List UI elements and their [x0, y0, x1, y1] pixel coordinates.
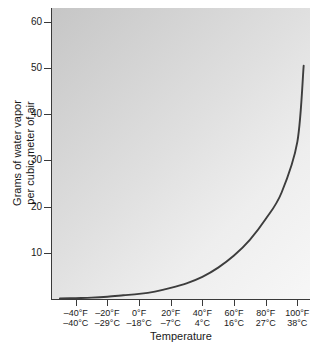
y-tick-label-60: 60	[14, 17, 42, 27]
x-tick-5	[234, 300, 235, 306]
x-axis-line	[51, 299, 310, 300]
x-tick-label-fahrenheit-7: 100°F	[285, 308, 309, 318]
y-tick-40	[44, 114, 51, 115]
y-tick-10	[44, 253, 51, 254]
x-tick-1	[107, 300, 108, 306]
x-tick-label-fahrenheit-2: 0°F	[132, 308, 146, 318]
x-tick-label-fahrenheit-5: 60°F	[224, 308, 243, 318]
x-tick-6	[266, 300, 267, 306]
x-tick-4	[202, 300, 203, 306]
y-tick-50	[44, 68, 51, 69]
x-tick-0	[76, 300, 77, 306]
x-tick-2	[139, 300, 140, 306]
x-tick-label-7: 100°F38°C	[274, 308, 316, 328]
x-tick-label-fahrenheit-3: 20°F	[161, 308, 180, 318]
x-tick-3	[171, 300, 172, 306]
x-axis-title: Temperature	[52, 330, 310, 342]
y-tick-60	[44, 22, 51, 23]
y-tick-30	[44, 160, 51, 161]
y-axis-title-line1: Grams of water vapor	[11, 33, 24, 273]
x-tick-7	[297, 300, 298, 306]
chart-figure: 102030405060 –40°F–40°C–20°F–29°C0°F–18°…	[0, 0, 316, 346]
y-axis-line	[51, 8, 52, 300]
x-tick-label-fahrenheit-6: 80°F	[256, 308, 275, 318]
x-tick-label-fahrenheit-4: 40°F	[193, 308, 212, 318]
y-axis-title: Grams of water vapor per cubic meter of …	[11, 33, 37, 273]
y-axis-title-line2: per cubic meter of air	[24, 33, 37, 273]
plot-area	[52, 8, 310, 299]
y-tick-20	[44, 207, 51, 208]
x-tick-label-celsius-7: 38°C	[274, 318, 316, 328]
